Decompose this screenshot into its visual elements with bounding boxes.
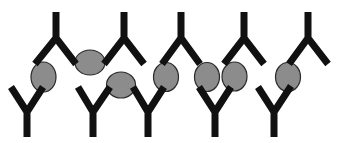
- antigen-circle-3: [107, 72, 136, 98]
- antibody-top-5: [289, 12, 328, 64]
- antibody-top-4: [224, 12, 264, 64]
- antigen-circle-4: [154, 63, 179, 92]
- antibody-bottom-3: [133, 87, 164, 137]
- antibody-top-3: [162, 12, 200, 64]
- antibody-bottom-4: [199, 87, 231, 137]
- antibody-bottom-5: [258, 86, 291, 137]
- antigen-circle-6: [222, 62, 247, 91]
- antigen-circle-2: [75, 50, 105, 75]
- antibody-bottom-2: [78, 87, 110, 137]
- antibody-antigen-lattice-diagram: [0, 0, 338, 143]
- antibody-bottom-1: [11, 87, 43, 137]
- antibody-top-2: [104, 12, 144, 64]
- bottom-antibody-row: [11, 86, 291, 137]
- antibody-top-1: [35, 12, 76, 64]
- antigen-circle-5: [195, 63, 220, 92]
